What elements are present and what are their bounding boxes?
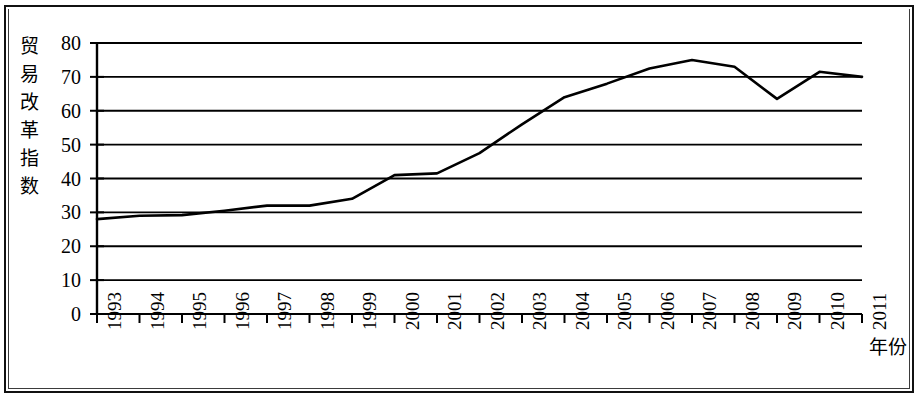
x-axis-tick-label: 1997 (275, 292, 294, 330)
x-axis-tick-label: 2007 (700, 292, 719, 330)
x-axis-tick-label: 1994 (148, 292, 167, 330)
x-axis-tick-label: 1998 (318, 292, 337, 330)
x-axis-tick-label: 2011 (870, 293, 889, 330)
y-axis-tick-label: 20 (39, 236, 81, 256)
x-axis-tick-label: 1993 (105, 292, 124, 330)
x-axis-tick-label: 1996 (233, 292, 252, 330)
x-axis-tick-label: 2010 (828, 292, 847, 330)
x-axis-tick-label: 2003 (530, 292, 549, 330)
x-axis-tick-label: 2009 (785, 292, 804, 330)
x-axis-tick-label: 1999 (360, 292, 379, 330)
chart-figure: 贸 易 改 革 指 数 01020304050607080 1993199419… (0, 0, 921, 400)
x-axis-tick-label: 2000 (403, 292, 422, 330)
gridlines (97, 43, 862, 314)
plot-area (0, 0, 921, 400)
x-axis-tick-label: 2008 (743, 292, 762, 330)
x-axis-tick-label: 2001 (445, 292, 464, 330)
x-axis-title: 年份 (869, 338, 907, 357)
y-axis-tick-label: 70 (39, 67, 81, 87)
y-axis-tick-label: 50 (39, 135, 81, 155)
data-line-series-0 (97, 60, 862, 219)
y-axis-tick-label: 40 (39, 169, 81, 189)
x-axis-tick-label: 2005 (615, 292, 634, 330)
y-axis-tick-label: 80 (39, 33, 81, 53)
x-axis-tick-label: 2002 (488, 292, 507, 330)
y-axis-tick-label: 10 (39, 270, 81, 290)
x-axis-tick-label: 2006 (658, 292, 677, 330)
y-axis-tick-label: 0 (39, 304, 81, 324)
x-axis-tick-label: 2004 (573, 292, 592, 330)
x-axis-tick-label: 1995 (190, 292, 209, 330)
y-axis-tick-label: 30 (39, 202, 81, 222)
y-axis-tick-label: 60 (39, 101, 81, 121)
